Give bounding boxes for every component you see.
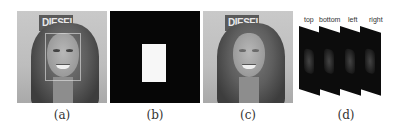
- panel-b-mask: [110, 11, 200, 103]
- frame-label-right: right: [369, 16, 383, 23]
- frame-right: [360, 26, 381, 96]
- panel-d-directional-maps: top bottom left right: [297, 16, 397, 102]
- panel-c-blurred-photo: DIESEL: [203, 11, 293, 103]
- left-eye: [239, 49, 246, 52]
- frame-glow: [345, 48, 355, 75]
- caption-c: (c): [218, 108, 278, 122]
- frame-top: [299, 26, 320, 96]
- frame-glow: [365, 48, 375, 75]
- panel-a-face-photo: DIESEL: [17, 11, 107, 103]
- frame-label-left: left: [348, 16, 357, 23]
- face-bounding-box: [45, 33, 81, 81]
- caption-a: (a): [32, 108, 92, 122]
- blurred-face-region: [233, 33, 265, 77]
- neck-region: [239, 77, 259, 103]
- frame-glow: [324, 48, 334, 75]
- frame-label-top: top: [304, 16, 314, 23]
- frame-glow: [304, 48, 314, 75]
- frame-bottom: [319, 26, 340, 96]
- mouth: [242, 64, 256, 69]
- caption-d: (d): [316, 108, 376, 122]
- right-eye: [252, 49, 259, 52]
- frame-left: [340, 26, 361, 96]
- caption-b: (b): [125, 108, 185, 122]
- frame-label-bottom: bottom: [319, 16, 340, 23]
- mask-white-rectangle: [142, 44, 166, 82]
